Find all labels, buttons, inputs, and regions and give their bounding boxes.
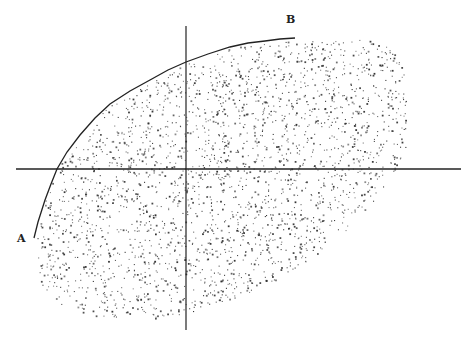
label-a: A	[16, 232, 26, 245]
label-b: B	[286, 13, 295, 26]
boundary-curve-a-b	[34, 38, 295, 238]
diagram-canvas: A B	[0, 0, 476, 339]
scatter-points	[38, 40, 408, 320]
